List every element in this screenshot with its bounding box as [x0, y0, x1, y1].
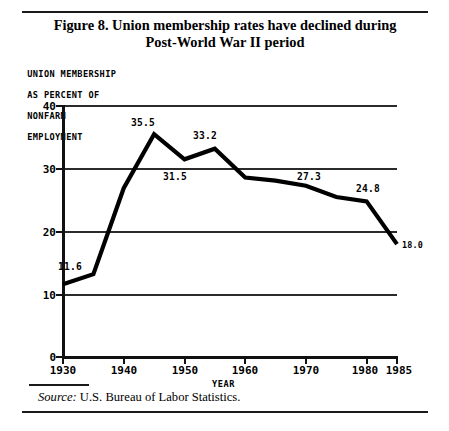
y-tick-label-10: 10 — [30, 289, 56, 302]
source-text: U.S. Bureau of Labor Statistics. — [80, 390, 241, 404]
data-label-1985: 18.0 — [402, 240, 423, 250]
y-tick-label-0: 0 — [30, 351, 56, 364]
source-note: Source: U.S. Bureau of Labor Statistics. — [38, 390, 240, 405]
data-label-1955: 33.2 — [193, 130, 217, 141]
data-label-1950: 31.5 — [163, 171, 187, 182]
source-prefix: Source: — [38, 390, 77, 404]
y-tick-label-20: 20 — [30, 226, 56, 239]
x-tick-label-1940: 1940 — [104, 364, 144, 377]
y-axis-ticks — [56, 106, 63, 357]
data-label-1945: 35.5 — [131, 117, 155, 128]
x-tick-label-1985: 1985 — [379, 364, 419, 377]
y-tick-label-30: 30 — [30, 163, 56, 176]
data-label-1930: 11.6 — [58, 261, 82, 272]
figure-bottom-rule — [22, 411, 428, 413]
x-tick-label-1960: 1960 — [225, 364, 265, 377]
x-tick-label-1950: 1950 — [165, 364, 205, 377]
source-rule — [29, 384, 89, 386]
x-tick-label-1970: 1970 — [286, 364, 326, 377]
data-label-1970: 27.3 — [297, 171, 321, 182]
data-label-1980: 24.8 — [356, 183, 380, 194]
union-membership-line — [63, 134, 397, 284]
x-axis-title: YEAR — [212, 379, 235, 389]
y-tick-label-40: 40 — [30, 100, 56, 113]
x-tick-label-1930: 1930 — [43, 364, 83, 377]
